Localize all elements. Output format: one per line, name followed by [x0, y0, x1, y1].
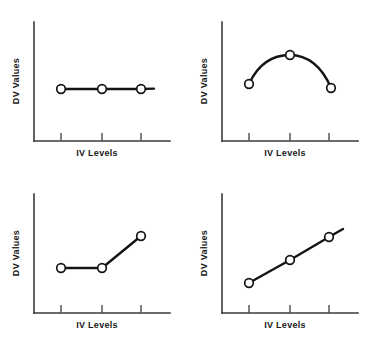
data-point-marker	[137, 232, 146, 241]
panel-threshold: DV Values IV Levels	[0, 172, 188, 344]
x-axis-label: IV Levels	[0, 320, 188, 330]
four-panel-figure: DV Values IV Levels DV Values IV Levels	[0, 0, 376, 345]
y-axis-label: DV Values	[11, 43, 21, 119]
y-axis-label: DV Values	[199, 215, 209, 291]
data-point-marker	[137, 85, 146, 94]
plot-inverted-u	[188, 0, 376, 172]
data-point-marker	[57, 264, 66, 273]
plot-flat	[0, 0, 188, 172]
y-axis-label: DV Values	[11, 215, 21, 291]
x-axis-label: IV Levels	[188, 320, 376, 330]
plot-threshold	[0, 172, 188, 344]
x-axis-label-text: IV Levels	[70, 148, 118, 158]
panel-flat: DV Values IV Levels	[0, 0, 188, 172]
data-point-marker	[98, 85, 107, 94]
x-axis-label: IV Levels	[0, 148, 188, 158]
data-point-marker	[57, 85, 66, 94]
x-axis-label-text: IV Levels	[70, 320, 118, 330]
data-point-marker	[327, 84, 336, 93]
data-point-marker	[325, 233, 334, 242]
x-axis-label-text: IV Levels	[258, 148, 306, 158]
y-axis-label: DV Values	[199, 43, 209, 119]
data-point-marker	[245, 279, 254, 288]
plot-linear	[188, 172, 376, 344]
panel-inverted-u: DV Values IV Levels	[188, 0, 376, 172]
data-point-marker	[245, 80, 254, 89]
data-point-marker	[98, 264, 107, 273]
panel-linear: DV Values IV Levels	[188, 172, 376, 344]
x-axis-label: IV Levels	[188, 148, 376, 158]
x-axis-label-text: IV Levels	[258, 320, 306, 330]
data-point-marker	[286, 51, 295, 60]
data-point-marker	[286, 256, 295, 265]
